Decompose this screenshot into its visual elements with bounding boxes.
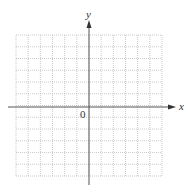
coordinate-plane: x y 0 [0, 0, 194, 193]
x-axis-label: x [178, 100, 184, 112]
x-axis-arrow-icon [168, 105, 176, 110]
y-axis-label: y [85, 8, 91, 20]
y-axis-arrow-icon [87, 20, 92, 28]
origin-label: 0 [80, 108, 86, 120]
